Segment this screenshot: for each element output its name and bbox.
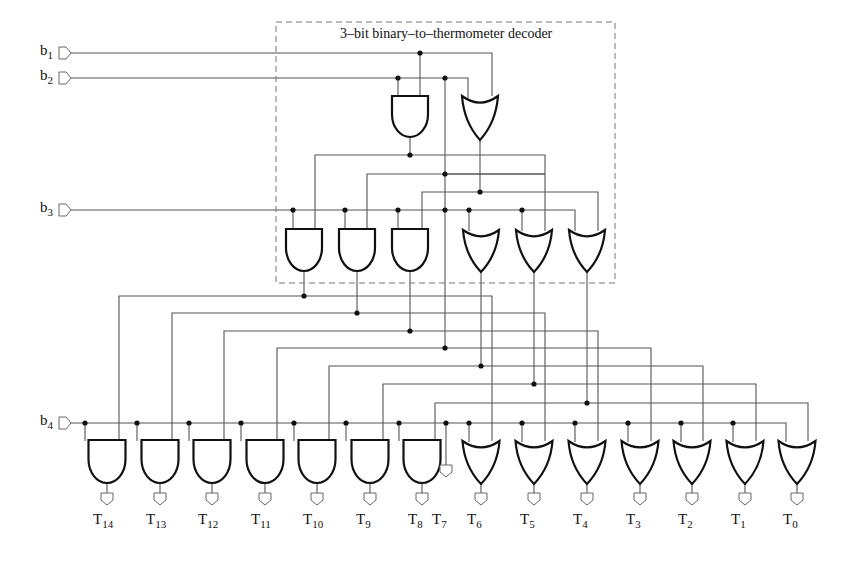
output-terminal-icon	[364, 493, 376, 505]
label-name: T	[783, 511, 792, 527]
or-gate	[516, 230, 552, 272]
and-gate	[89, 440, 126, 483]
output-label: T6	[467, 512, 482, 530]
junction-dot	[442, 207, 447, 212]
terminals	[59, 47, 803, 505]
label-subscript: 7	[441, 518, 447, 530]
output-label: T10	[303, 512, 323, 530]
junction-dot	[442, 75, 447, 80]
label-subscript: 10	[312, 518, 323, 530]
circuit-diagram	[0, 0, 860, 566]
or-gate	[622, 441, 659, 484]
or-gate	[779, 441, 816, 484]
and-gate	[392, 229, 428, 271]
output-label: T9	[356, 512, 371, 530]
or-gate	[463, 230, 499, 272]
and-gate	[352, 440, 389, 483]
output-terminal-icon	[416, 493, 428, 505]
output-terminal-icon	[686, 493, 698, 505]
output-terminal-icon	[634, 493, 646, 505]
output-label: T1	[731, 512, 746, 530]
wire	[71, 210, 575, 231]
junction-dot	[395, 207, 400, 212]
label-subscript: 13	[155, 518, 166, 530]
input-terminal-icon	[59, 47, 71, 59]
label-name: b	[40, 67, 48, 83]
label-name: T	[93, 511, 102, 527]
label-name: T	[467, 511, 476, 527]
junction-dot	[301, 293, 306, 298]
wire	[315, 155, 545, 231]
junction-dot	[396, 420, 401, 425]
output-terminal-icon	[475, 493, 487, 505]
output-label: T8	[408, 512, 423, 530]
junction-dot	[343, 420, 348, 425]
junction-dot	[238, 420, 243, 425]
junction-dot	[407, 328, 412, 333]
output-terminal-icon	[739, 493, 751, 505]
wire	[71, 53, 492, 96]
output-terminal-icon	[206, 493, 218, 505]
junction-dot	[466, 207, 471, 212]
label-subscript: 8	[417, 518, 423, 530]
wire	[422, 192, 598, 231]
and-gate	[339, 229, 375, 271]
label-subscript: 3	[48, 206, 54, 218]
output-label: T11	[251, 512, 271, 530]
output-terminal-icon	[311, 493, 323, 505]
label-subscript: 2	[48, 74, 54, 86]
wire	[172, 313, 545, 441]
or-gate	[674, 441, 711, 484]
or-gate	[569, 441, 606, 484]
input-label: b4	[40, 413, 53, 431]
junction-dot	[519, 420, 524, 425]
label-subscript: 6	[476, 518, 482, 530]
output-terminal-icon	[154, 493, 166, 505]
junction-dot	[678, 420, 683, 425]
wire	[435, 403, 808, 441]
label-name: T	[432, 511, 441, 527]
output-label: T3	[626, 512, 641, 530]
label-name: T	[626, 511, 635, 527]
junction-dot	[291, 420, 296, 425]
label-name: T	[573, 511, 582, 527]
label-subscript: 4	[48, 419, 54, 431]
output-label: T12	[198, 512, 218, 530]
or-gate	[727, 441, 764, 484]
and-gate	[299, 440, 336, 483]
or-gate	[516, 441, 553, 484]
wire	[119, 296, 492, 441]
label-subscript: 3	[635, 518, 641, 530]
junction-dot	[478, 363, 483, 368]
input-label: b2	[40, 68, 53, 86]
gates	[89, 96, 816, 484]
label-name: b	[40, 412, 48, 428]
and-gate	[142, 440, 179, 483]
junction-dot	[730, 420, 735, 425]
or-gate	[569, 230, 605, 272]
and-gate	[194, 440, 231, 483]
label-name: T	[198, 511, 207, 527]
label-subscript: 0	[792, 518, 798, 530]
junction-dot	[186, 420, 191, 425]
junction-dot	[584, 400, 589, 405]
output-label: T14	[93, 512, 113, 530]
label-subscript: 2	[687, 518, 693, 530]
junction-dot	[572, 420, 577, 425]
junction-dot	[442, 345, 447, 350]
or-gate	[462, 96, 498, 140]
output-terminal-icon	[440, 465, 452, 477]
junction-dot	[531, 381, 536, 386]
junction-dot	[519, 207, 524, 212]
label-subscript: 14	[102, 518, 113, 530]
junction-dot	[407, 152, 412, 157]
wire	[383, 384, 756, 441]
output-label: T5	[520, 512, 535, 530]
output-terminal-icon	[259, 493, 271, 505]
junction-dot	[290, 207, 295, 212]
label-name: b	[40, 42, 48, 58]
junction-dot	[82, 420, 87, 425]
decoder-title: 3–bit binary–to–thermometer decoder	[340, 26, 552, 42]
label-subscript: 1	[740, 518, 746, 530]
or-gate	[463, 441, 500, 484]
